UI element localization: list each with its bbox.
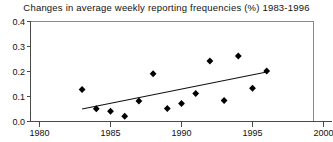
x-tick-label-3: 1995: [242, 128, 262, 138]
plot-frame: [31, 22, 332, 122]
data-point: [192, 90, 199, 97]
data-point: [107, 108, 114, 115]
trend-line-group: [82, 72, 267, 109]
plot-area: 0.0 0.1 0.2 0.3 0.4 1980 1985 1990 1995 …: [0, 0, 333, 142]
y-tick-label-0: 0.0: [12, 117, 25, 127]
y-tick-label-2: 0.2: [12, 67, 25, 77]
chart-figure: Changes in average weekly reporting freq…: [0, 0, 333, 142]
y-tick-label-4: 0.4: [12, 17, 25, 27]
trend-line: [82, 72, 267, 109]
data-point: [121, 113, 128, 120]
x-tick-label-2: 1990: [171, 128, 191, 138]
data-point: [249, 85, 256, 92]
data-points-group: [79, 53, 270, 120]
x-tick-label-1: 1985: [100, 128, 120, 138]
data-point: [221, 97, 228, 104]
data-point: [207, 58, 214, 65]
data-point: [150, 70, 157, 77]
data-point: [164, 105, 171, 112]
y-axis-ticks: 0.0 0.1 0.2 0.3 0.4: [12, 17, 30, 127]
x-tick-label-4: 2000: [313, 128, 333, 138]
data-point: [79, 86, 86, 93]
x-axis-ticks: 1980 1985 1990 1995 2000: [29, 122, 333, 139]
x-tick-label-0: 1980: [29, 128, 49, 138]
y-tick-label-3: 0.3: [12, 42, 25, 52]
data-point: [178, 100, 185, 107]
y-tick-label-1: 0.1: [12, 92, 25, 102]
data-point: [263, 68, 270, 75]
data-point: [235, 53, 242, 60]
